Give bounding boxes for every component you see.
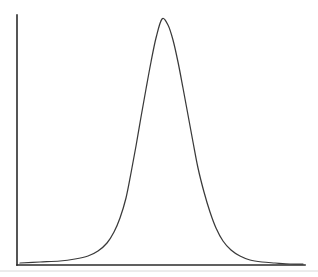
chart-figure [0,0,318,277]
plot-background [0,0,318,277]
plot-canvas [0,0,318,277]
